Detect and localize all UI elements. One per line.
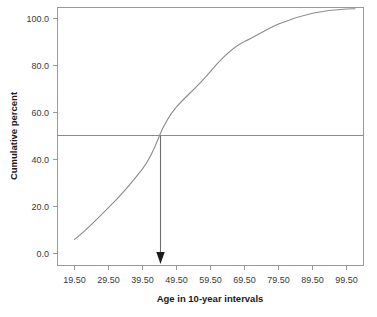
x-tick-label: 59.50 [199,275,222,285]
chart-background [0,0,377,317]
chart-canvas: 0.0 20.0 40.0 60.0 80.0 100.0 [0,0,377,317]
x-axis-title: Age in 10-year intervals [157,293,264,304]
y-tick-label: 40.0 [31,155,49,165]
x-tick-label: 89.50 [301,275,324,285]
y-tick-label: 20.0 [31,202,49,212]
y-tick-label: 80.0 [31,61,49,71]
x-tick-label: 39.50 [131,275,154,285]
x-tick-label: 29.50 [97,275,120,285]
cumulative-percent-chart: 0.0 20.0 40.0 60.0 80.0 100.0 [0,0,377,317]
x-tick-label: 69.50 [233,275,256,285]
x-tick-label: 49.50 [165,275,188,285]
x-tick-label: 79.50 [267,275,290,285]
y-tick-label: 60.0 [31,108,49,118]
y-tick-label: 0.0 [36,249,49,259]
y-axis-title: Cumulative percent [8,91,19,180]
y-tick-label: 100.0 [26,14,49,24]
x-tick-label: 19.50 [63,275,86,285]
x-tick-label: 99.50 [335,275,358,285]
